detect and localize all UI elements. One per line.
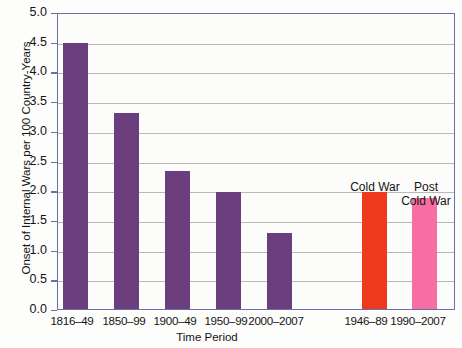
x-tick-label-1990-2007: 1990–2007 bbox=[379, 314, 457, 327]
gridline-4.0 bbox=[58, 73, 454, 74]
bar-1950-99[interactable] bbox=[216, 192, 241, 309]
y-axis-title: Onset of Internal Wars per 100 Country-Y… bbox=[20, 13, 32, 303]
y-tick-label-8: 4.0 bbox=[30, 64, 47, 78]
y-tick-label-9: 4.5 bbox=[30, 35, 47, 49]
bar-1816-49[interactable] bbox=[63, 43, 88, 309]
y-tick-label-3: 1.5 bbox=[30, 213, 47, 227]
plot-area: Cold War Post Cold War bbox=[57, 13, 455, 310]
bar-1850-99[interactable] bbox=[114, 113, 139, 309]
bar-1990-2007[interactable] bbox=[412, 198, 437, 309]
annotation-post-cold-war: Post Cold War bbox=[388, 180, 462, 208]
y-tick-mark-0 bbox=[51, 310, 57, 311]
x-tick-label-2000-2007: 2000–2007 bbox=[237, 314, 315, 327]
gridline-4.5 bbox=[58, 44, 454, 45]
bar-1900-49[interactable] bbox=[165, 171, 190, 309]
y-tick-label-10: 5.0 bbox=[30, 5, 47, 19]
bar-1946-89[interactable] bbox=[362, 192, 387, 309]
annotation-post-cold-war-text: Cold War bbox=[401, 194, 451, 208]
gridline-3.5 bbox=[58, 103, 454, 104]
bar-chart: Onset of Internal Wars per 100 Country-Y… bbox=[0, 0, 462, 348]
y-tick-label-1: 0.5 bbox=[30, 272, 47, 286]
y-tick-label-5: 2.5 bbox=[30, 154, 47, 168]
y-tick-label-2: 1.0 bbox=[30, 243, 47, 257]
annotation-post-text: Post bbox=[414, 180, 438, 194]
x-axis-title: Time Period bbox=[57, 331, 357, 343]
bar-2000-2007[interactable] bbox=[267, 233, 292, 309]
y-tick-label-7: 3.5 bbox=[30, 94, 47, 108]
y-tick-label-4: 2.0 bbox=[30, 183, 47, 197]
y-tick-label-6: 3.0 bbox=[30, 124, 47, 138]
